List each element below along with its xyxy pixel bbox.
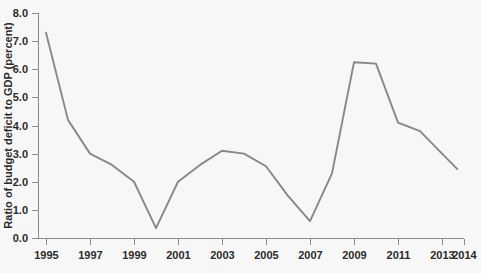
chart-background [0, 0, 481, 273]
y-axis-title: Ratio of budget deficit to GDP (percent) [2, 22, 14, 229]
x-tick-label: 2014 [452, 249, 477, 261]
x-tick-label: 2013 [430, 249, 454, 261]
x-tick-label: 2003 [210, 249, 234, 261]
y-tick-label: 2.0 [13, 176, 28, 188]
x-tick-label: 2007 [298, 249, 322, 261]
x-tick-label: 2009 [342, 249, 366, 261]
y-axis-title-text: Ratio of budget deficit to GDP (percent) [2, 22, 14, 229]
chart-container: 0.01.02.03.04.05.06.07.08.0 199519971999… [0, 0, 481, 273]
y-tick-label: 0.0 [13, 232, 28, 244]
y-tick-label: 4.0 [13, 120, 28, 132]
x-tick-label: 2005 [254, 249, 278, 261]
x-tick-label: 2001 [166, 249, 190, 261]
x-tick-label: 2011 [387, 249, 411, 261]
y-tick-label: 3.0 [13, 148, 28, 160]
y-tick-label: 1.0 [13, 204, 28, 216]
x-tick-label: 1995 [34, 249, 58, 261]
y-tick-label: 8.0 [13, 7, 28, 19]
x-tick-label: 1997 [78, 249, 102, 261]
line-chart: 0.01.02.03.04.05.06.07.08.0 199519971999… [0, 0, 481, 273]
x-tick-label: 1999 [122, 249, 146, 261]
y-tick-label: 5.0 [13, 91, 28, 103]
y-tick-label: 7.0 [13, 35, 28, 47]
y-tick-label: 6.0 [13, 63, 28, 75]
